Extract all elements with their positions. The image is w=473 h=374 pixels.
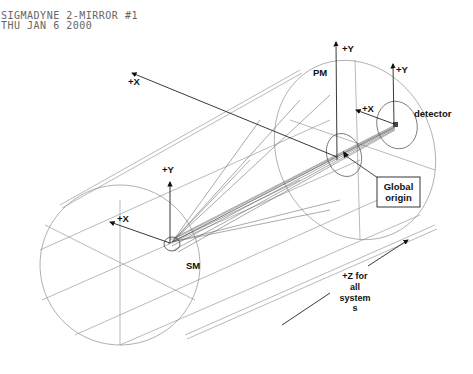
- sm-label: SM: [186, 260, 200, 271]
- detector-label: detector: [414, 108, 452, 119]
- sm-y-label: +Y: [162, 164, 175, 175]
- pm-x-label: +X: [128, 76, 141, 87]
- global-origin-label-2: origin: [385, 192, 412, 203]
- z-label-3: system: [339, 293, 370, 303]
- optical-system-diagram: +Y PM +X +Y +X detector +Y +X SM Global …: [0, 0, 473, 374]
- detector-axes: [356, 64, 394, 124]
- z-axis-arrow-lower: [282, 293, 330, 325]
- z-label-2: all: [350, 282, 360, 292]
- sm-x-label: +X: [117, 213, 130, 224]
- pm-label: PM: [313, 67, 327, 78]
- detector-x-label: +X: [362, 103, 375, 114]
- pm-axes: [132, 42, 337, 160]
- global-origin-label-1: Global: [384, 181, 414, 192]
- z-label-4: s: [352, 303, 357, 313]
- z-axis-arrow-upper: [368, 240, 408, 266]
- detector-y-label: +Y: [396, 64, 409, 75]
- ray-bundle: [168, 95, 395, 252]
- z-label-1: +Z for: [342, 271, 368, 281]
- pm-y-label: +Y: [342, 43, 355, 54]
